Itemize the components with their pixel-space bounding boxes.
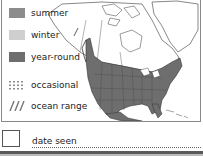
winter-swatch (9, 30, 25, 40)
date-seen-row: date seen (0, 128, 203, 150)
legend-item-summer: summer (9, 7, 68, 19)
ocean-range-hatched-swatch (9, 101, 25, 111)
mexico (106, 112, 142, 121)
legend-item-occasional: occasional (9, 79, 78, 91)
legend: summer winter year-round occasional (2, 0, 82, 121)
year-round-swatch (9, 52, 25, 62)
legend-label: occasional (31, 80, 78, 90)
legend-item-year-round: year-round (9, 51, 80, 63)
date-seen-label: date seen (32, 136, 77, 146)
caribbean-islands (166, 110, 188, 118)
seen-checkbox[interactable] (2, 130, 20, 147)
legend-label: summer (31, 8, 68, 18)
legend-label: winter (31, 30, 59, 40)
summer-swatch (9, 8, 25, 18)
occasional-dotted-swatch (9, 80, 25, 90)
range-map: summer winter year-round occasional (1, 0, 201, 122)
legend-item-winter: winter (9, 29, 59, 41)
legend-label: year-round (31, 52, 80, 62)
bottom-divider-shadow (0, 154, 203, 156)
legend-item-ocean-range: ocean range (9, 100, 87, 112)
legend-label: ocean range (31, 101, 87, 111)
date-seen-input-line[interactable] (32, 147, 201, 148)
